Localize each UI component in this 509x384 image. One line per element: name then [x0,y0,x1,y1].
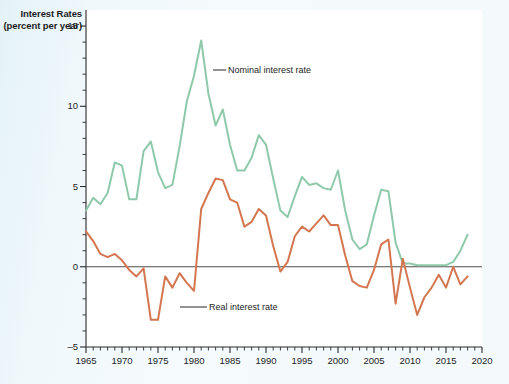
x-tick-label: 2020 [465,355,499,366]
y-tick-label: –5 [52,341,78,352]
x-tick-label: 2000 [321,355,355,366]
nominal-series-annotation: Nominal interest rate [228,65,311,75]
interest-rates-line-chart [0,0,509,384]
x-axis [86,347,482,353]
y-tick-label: 0 [52,261,78,272]
x-tick-label: 1975 [141,355,175,366]
chart-figure: Interest Rates (percent per year) –50510… [0,0,509,384]
y-tick-label: 15 [52,20,78,31]
x-tick-label: 1990 [249,355,283,366]
real-series-annotation: Real interest rate [209,302,278,312]
x-tick-label: 2010 [393,355,427,366]
x-tick-label: 1980 [177,355,211,366]
y-axis-title-line-1: Interest Rates [0,8,82,20]
y-axis [80,10,86,347]
x-tick-label: 2005 [357,355,391,366]
x-tick-label: 1965 [69,355,103,366]
x-tick-label: 1985 [213,355,247,366]
plot-area-background [86,10,482,347]
y-tick-label: 10 [52,100,78,111]
y-tick-label: 5 [52,181,78,192]
x-tick-label: 2015 [429,355,463,366]
x-tick-label: 1995 [285,355,319,366]
x-tick-label: 1970 [105,355,139,366]
